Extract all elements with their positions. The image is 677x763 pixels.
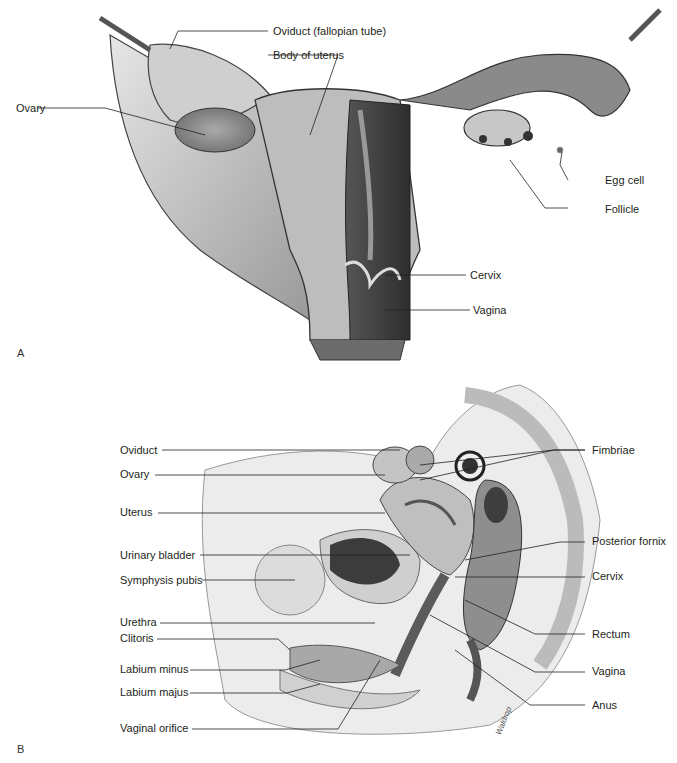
label-fimbriae: Fimbriae <box>592 444 635 457</box>
label-cervix-b: Cervix <box>592 570 623 583</box>
label-ovary-b: Ovary <box>120 468 149 481</box>
label-vagina-b: Vagina <box>592 665 625 678</box>
label-labium-minus: Labium minus <box>120 663 188 676</box>
label-symphysis-pubis: Symphysis pubis <box>120 574 203 587</box>
illustration <box>0 0 677 763</box>
label-anus: Anus <box>592 699 617 712</box>
label-vagina: Vagina <box>473 304 506 317</box>
label-ovary: Ovary <box>16 102 45 115</box>
label-clitoris: Clitoris <box>120 632 154 645</box>
label-oviduct: Oviduct <box>120 444 157 457</box>
label-cervix: Cervix <box>470 269 501 282</box>
label-rectum: Rectum <box>592 628 630 641</box>
label-posterior-fornix: Posterior fornix <box>592 535 666 548</box>
label-urethra: Urethra <box>120 616 157 629</box>
label-uterus: Uterus <box>120 506 152 519</box>
label-urinary-bladder: Urinary bladder <box>120 549 195 562</box>
label-follicle: Follicle <box>605 203 639 216</box>
label-oviduct-fallopian-tube: Oviduct (fallopian tube) <box>273 25 386 38</box>
panel-b-illustration <box>202 385 600 734</box>
panel-a-letter: A <box>17 347 24 359</box>
label-labium-majus: Labium majus <box>120 686 188 699</box>
label-vaginal-orifice: Vaginal orifice <box>120 722 188 735</box>
panel-b-letter: B <box>17 743 24 755</box>
panel-a-illustration <box>100 10 660 360</box>
label-egg-cell: Egg cell <box>605 174 644 187</box>
label-body-of-uterus: Body of uterus <box>273 49 344 62</box>
anatomy-figure: Oviduct (fallopian tube) Body of uterus … <box>0 0 677 763</box>
